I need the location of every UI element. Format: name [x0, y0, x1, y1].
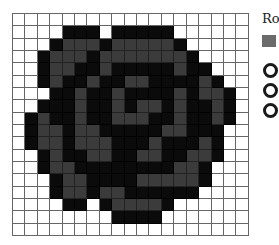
grid-cell	[224, 150, 236, 162]
grid-cell	[137, 26, 149, 38]
grid-cell	[112, 39, 124, 51]
grid-cell	[174, 51, 186, 63]
grid-cell	[75, 88, 87, 100]
grid-cell	[187, 211, 199, 223]
grid-cell	[125, 14, 137, 26]
grid-cell	[50, 113, 62, 125]
grid-cell	[38, 125, 50, 137]
grid-cell	[149, 113, 161, 125]
grid-cell	[25, 150, 37, 162]
grid-cell	[236, 150, 248, 162]
grid-cell	[38, 100, 50, 112]
grid-cell	[224, 174, 236, 186]
grid-cell	[137, 14, 149, 26]
grid-cell	[112, 137, 124, 149]
grid-cell	[199, 211, 211, 223]
grid-cell	[212, 113, 224, 125]
grid-cell	[224, 224, 236, 236]
grid-cell	[63, 199, 75, 211]
grid-cell	[125, 76, 137, 88]
grid-cell	[112, 150, 124, 162]
grid-cell	[162, 137, 174, 149]
grid-cell	[100, 137, 112, 149]
grid-cell	[87, 125, 99, 137]
grid-cell	[149, 211, 161, 223]
grid-cell	[162, 162, 174, 174]
grid-cell	[87, 14, 99, 26]
grid-cell	[174, 88, 186, 100]
grid-cell	[100, 26, 112, 38]
grid-cell	[50, 39, 62, 51]
ring-icon	[263, 83, 278, 98]
grid-cell	[125, 88, 137, 100]
grid-cell	[137, 162, 149, 174]
grid-cell	[212, 211, 224, 223]
grid-cell	[236, 174, 248, 186]
grid-cell	[75, 39, 87, 51]
grid-cell	[38, 211, 50, 223]
grid-cell	[25, 137, 37, 149]
grid-cell	[224, 113, 236, 125]
grid-cell	[149, 14, 161, 26]
grid-cell	[63, 137, 75, 149]
grid-cell	[149, 150, 161, 162]
grid-cell	[63, 113, 75, 125]
grid-cell	[125, 63, 137, 75]
grid-cell	[112, 199, 124, 211]
grid-cell	[149, 162, 161, 174]
grid-cell	[212, 162, 224, 174]
grid-cell	[25, 100, 37, 112]
grid-cell	[112, 162, 124, 174]
grid-cell	[63, 224, 75, 236]
grid-cell	[125, 26, 137, 38]
grid-cell	[13, 224, 25, 236]
grid-cell	[162, 26, 174, 38]
grid-cell	[75, 137, 87, 149]
grid-cell	[137, 137, 149, 149]
grid-cell	[212, 63, 224, 75]
grid-cell	[25, 14, 37, 26]
grid-cell	[75, 211, 87, 223]
grid-cell	[38, 76, 50, 88]
grid-cell	[112, 211, 124, 223]
grid-cell	[87, 162, 99, 174]
grid-cell	[75, 100, 87, 112]
grid-cell	[75, 174, 87, 186]
grid-cell	[100, 76, 112, 88]
grid-cell	[87, 224, 99, 236]
grid-cell	[63, 51, 75, 63]
grid-cell	[199, 100, 211, 112]
grid-cell	[63, 26, 75, 38]
grid-cell	[187, 199, 199, 211]
grid-cell	[38, 26, 50, 38]
grid-cell	[187, 39, 199, 51]
grid-cell	[174, 125, 186, 137]
grid-cell	[187, 187, 199, 199]
grid-cell	[162, 100, 174, 112]
grid-cell	[50, 14, 62, 26]
grid-cell	[25, 63, 37, 75]
grid-cell	[199, 63, 211, 75]
grid-cell	[174, 26, 186, 38]
grid-cell	[75, 224, 87, 236]
grid-cell	[174, 63, 186, 75]
grid-cell	[137, 125, 149, 137]
grid-cell	[100, 162, 112, 174]
grid-cell	[125, 51, 137, 63]
grid-cell	[212, 125, 224, 137]
grid-cell	[174, 162, 186, 174]
grid-cell	[13, 199, 25, 211]
grid-cell	[75, 63, 87, 75]
grid-cell	[25, 88, 37, 100]
grid-cell	[224, 187, 236, 199]
grid-cell	[63, 100, 75, 112]
grid-cell	[25, 39, 37, 51]
grid-cell	[236, 125, 248, 137]
grid-cell	[137, 51, 149, 63]
grid-cell	[38, 88, 50, 100]
grid-cell	[50, 125, 62, 137]
grid-cell	[224, 26, 236, 38]
grid-cell	[125, 100, 137, 112]
grid-cell	[137, 199, 149, 211]
grid-cell	[112, 51, 124, 63]
